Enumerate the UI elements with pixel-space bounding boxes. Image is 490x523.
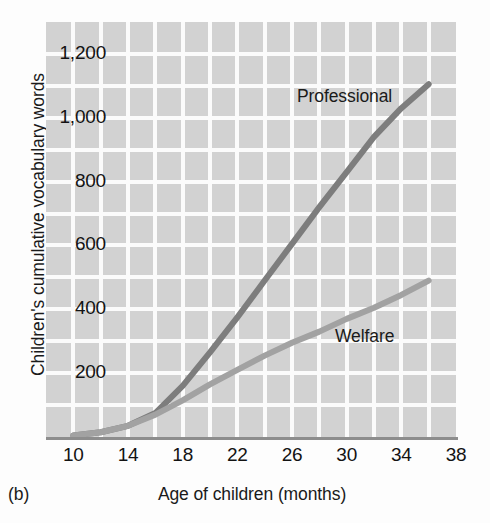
x-tick-label: 34: [379, 444, 423, 466]
x-tick-label: 10: [51, 444, 95, 466]
y-tick-label: 400: [42, 297, 106, 319]
series-label-welfare: Welfare: [335, 326, 394, 347]
y-tick-label: 1,200: [42, 42, 106, 64]
x-axis-line: [46, 437, 458, 440]
series-lines: [46, 22, 456, 437]
x-tick-label: 18: [161, 444, 205, 466]
x-tick-label: 14: [106, 444, 150, 466]
series-line-professional: [73, 84, 428, 435]
figure-panel-b: Children's cumulative vocabulary words 2…: [0, 0, 490, 523]
y-tick-label: 600: [42, 233, 106, 255]
plot-area: [46, 22, 456, 437]
y-tick-label: 200: [42, 361, 106, 383]
y-tick-label: 1,000: [42, 106, 106, 128]
x-tick-label: 30: [325, 444, 369, 466]
x-tick-label: 22: [215, 444, 259, 466]
x-tick-label: 38: [434, 444, 478, 466]
y-tick-label: 800: [42, 170, 106, 192]
x-axis-title: Age of children (months): [46, 484, 458, 505]
panel-caption: (b): [8, 484, 29, 505]
series-label-professional: Professional: [297, 86, 392, 107]
x-tick-label: 26: [270, 444, 314, 466]
